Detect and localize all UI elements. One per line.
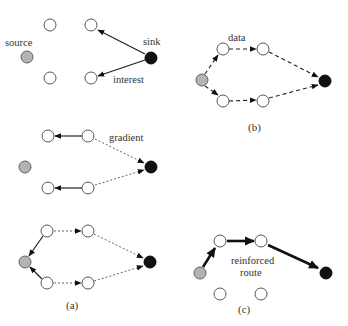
node	[44, 19, 56, 31]
reinforced-edge-sink	[268, 245, 318, 268]
node	[85, 19, 97, 31]
source-label: source	[5, 37, 33, 48]
node	[255, 288, 267, 300]
data-label: data	[228, 32, 246, 43]
data-edge-source-top	[205, 55, 218, 74]
node	[42, 182, 54, 194]
node	[42, 130, 54, 142]
data-edge-top-sink	[269, 52, 318, 77]
source-node	[196, 74, 208, 86]
gradient-edge-bottom-sink	[95, 170, 144, 185]
node	[217, 43, 229, 55]
edge-bottom-sink	[94, 266, 143, 281]
sink-node	[145, 52, 157, 64]
gradient-label: gradient	[109, 132, 143, 143]
node	[214, 235, 226, 247]
panel-interest: source sink interest	[5, 19, 161, 85]
source-node	[194, 267, 206, 279]
interest-edge-top	[98, 30, 145, 54]
node	[82, 225, 94, 237]
directed-diffusion-diagram: source sink interest gradient (a)	[0, 0, 348, 326]
sink-node	[144, 256, 156, 268]
node	[217, 95, 229, 107]
node	[214, 288, 226, 300]
panel-b: data (b)	[196, 32, 331, 134]
edge-to-source-top	[29, 236, 43, 256]
sink-node	[145, 161, 157, 173]
node	[82, 182, 94, 194]
source-node	[19, 161, 31, 173]
data-edge-bottom-sink	[269, 85, 318, 98]
edge-to-source-bottom	[30, 267, 42, 279]
sink-node	[319, 75, 331, 87]
data-edge-source-bottom	[205, 86, 218, 95]
caption-c: (c)	[238, 303, 251, 316]
source-node	[21, 51, 33, 63]
caption-b: (b)	[248, 121, 261, 134]
node	[82, 130, 94, 142]
node	[257, 95, 269, 107]
panel-c: reinforced route (c)	[194, 235, 332, 316]
node	[41, 225, 53, 237]
sink-label: sink	[143, 36, 161, 47]
reinforced-edge-source	[203, 248, 215, 267]
node	[257, 43, 269, 55]
caption-a: (a)	[66, 299, 79, 312]
source-node	[19, 256, 31, 268]
panel-a: (a)	[19, 225, 156, 312]
edge-top-sink	[94, 234, 143, 258]
panel-gradient: gradient	[19, 130, 157, 194]
node	[44, 72, 56, 84]
node	[85, 72, 97, 84]
route-label: route	[240, 267, 262, 278]
node	[82, 277, 94, 289]
interest-label: interest	[113, 74, 144, 85]
node	[255, 235, 267, 247]
node	[41, 277, 53, 289]
data-edge-bottom	[229, 100, 256, 101]
reinforced-label: reinforced	[231, 255, 275, 266]
sink-node	[320, 267, 332, 279]
